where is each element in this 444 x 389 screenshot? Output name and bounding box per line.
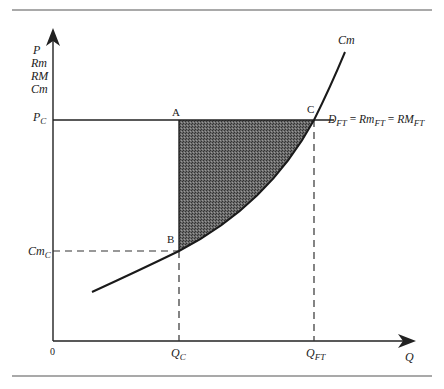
pc-label: PC	[33, 111, 46, 123]
x-axis-label: Q	[405, 351, 414, 363]
qft-label: QFT	[306, 347, 325, 359]
diagram-canvas	[0, 0, 444, 389]
demand-label: DFT = RmFT = RMFT	[328, 114, 424, 126]
point-a-label: A	[172, 107, 180, 118]
point-c-label: C	[307, 104, 314, 115]
shaded-area-abc	[179, 120, 314, 251]
y-label-cm: Cm	[31, 83, 48, 95]
qc-label: QC	[171, 347, 186, 359]
y-label-rm: Rm	[31, 57, 47, 69]
origin-label: 0	[50, 347, 55, 357]
cm-curve-label: Cm	[338, 34, 355, 46]
point-b-label: B	[167, 234, 174, 245]
y-label-RM: RM	[31, 70, 48, 82]
cmc-label: CmC	[28, 245, 51, 257]
y-label-p: P	[33, 44, 40, 56]
